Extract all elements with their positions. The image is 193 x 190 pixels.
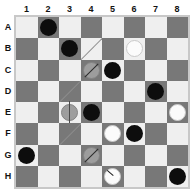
square-F7[interactable] xyxy=(145,123,167,144)
square-E1[interactable] xyxy=(16,102,38,123)
square-D3[interactable] xyxy=(59,81,81,102)
square-F8[interactable] xyxy=(167,123,189,144)
square-C2[interactable] xyxy=(38,60,60,81)
square-A4[interactable] xyxy=(81,17,103,38)
square-G6[interactable] xyxy=(124,145,146,166)
square-H8[interactable] xyxy=(167,166,189,187)
hairline-D3 xyxy=(59,81,81,102)
column-label-4: 4 xyxy=(81,3,102,15)
square-H2[interactable] xyxy=(38,166,60,187)
square-B3[interactable] xyxy=(59,38,81,59)
square-A7[interactable] xyxy=(145,17,167,38)
square-G7[interactable] xyxy=(145,145,167,166)
piece-gray-G4[interactable] xyxy=(83,147,100,164)
square-C3[interactable] xyxy=(59,60,81,81)
square-H4[interactable] xyxy=(81,166,103,187)
square-G8[interactable] xyxy=(167,145,189,166)
piece-black-D7[interactable] xyxy=(147,83,164,100)
square-A3[interactable] xyxy=(59,17,81,38)
square-E8[interactable] xyxy=(167,102,189,123)
column-label-3: 3 xyxy=(59,3,80,15)
square-G2[interactable] xyxy=(38,145,60,166)
square-D6[interactable] xyxy=(124,81,146,102)
column-label-1: 1 xyxy=(16,3,37,15)
square-F6[interactable] xyxy=(124,123,146,144)
square-D2[interactable] xyxy=(38,81,60,102)
square-H1[interactable] xyxy=(16,166,38,187)
square-C7[interactable] xyxy=(145,60,167,81)
hairline-B4 xyxy=(81,38,103,59)
square-D7[interactable] xyxy=(145,81,167,102)
square-E7[interactable] xyxy=(145,102,167,123)
piece-black-F6[interactable] xyxy=(126,125,143,142)
column-label-6: 6 xyxy=(124,3,145,15)
square-B4[interactable] xyxy=(81,38,103,59)
square-D1[interactable] xyxy=(16,81,38,102)
column-label-5: 5 xyxy=(102,3,123,15)
square-D8[interactable] xyxy=(167,81,189,102)
square-E5[interactable] xyxy=(102,102,124,123)
square-F3[interactable] xyxy=(59,123,81,144)
square-F1[interactable] xyxy=(16,123,38,144)
piece-black-E4[interactable] xyxy=(83,104,100,121)
square-B2[interactable] xyxy=(38,38,60,59)
square-F5[interactable] xyxy=(102,123,124,144)
column-label-2: 2 xyxy=(38,3,59,15)
square-B5[interactable] xyxy=(102,38,124,59)
piece-gray-C4[interactable] xyxy=(83,62,100,79)
square-B6[interactable] xyxy=(124,38,146,59)
column-label-8: 8 xyxy=(167,3,188,15)
row-label-A: A xyxy=(2,17,14,38)
square-D5[interactable] xyxy=(102,81,124,102)
piece-black-C5[interactable] xyxy=(104,62,121,79)
square-G1[interactable] xyxy=(16,145,38,166)
square-E6[interactable] xyxy=(124,102,146,123)
square-G3[interactable] xyxy=(59,145,81,166)
square-A1[interactable] xyxy=(16,17,38,38)
square-A8[interactable] xyxy=(167,17,189,38)
board-frame xyxy=(14,15,190,189)
checkerboard-widget: 12345678 ABCDEFGH xyxy=(0,0,193,190)
square-B8[interactable] xyxy=(167,38,189,59)
row-label-E: E xyxy=(2,102,14,123)
row-label-B: B xyxy=(2,38,14,59)
row-label-D: D xyxy=(2,81,14,102)
square-H5[interactable] xyxy=(102,166,124,187)
square-A6[interactable] xyxy=(124,17,146,38)
piece-black-B3[interactable] xyxy=(61,40,78,57)
row-label-H: H xyxy=(2,166,14,187)
square-A5[interactable] xyxy=(102,17,124,38)
square-E2[interactable] xyxy=(38,102,60,123)
piece-white-B6[interactable] xyxy=(126,40,143,57)
square-G4[interactable] xyxy=(81,145,103,166)
square-E3[interactable] xyxy=(59,102,81,123)
square-D4[interactable] xyxy=(81,81,103,102)
square-H3[interactable] xyxy=(59,166,81,187)
square-G5[interactable] xyxy=(102,145,124,166)
square-H6[interactable] xyxy=(124,166,146,187)
square-A2[interactable] xyxy=(38,17,60,38)
board-grid[interactable] xyxy=(16,17,188,187)
square-H7[interactable] xyxy=(145,166,167,187)
hairline-F3 xyxy=(59,123,81,144)
piece-gray-E3[interactable] xyxy=(61,104,78,121)
square-C6[interactable] xyxy=(124,60,146,81)
piece-white-H5[interactable] xyxy=(104,168,121,185)
piece-white-E8[interactable] xyxy=(169,104,186,121)
row-label-F: F xyxy=(2,123,14,144)
square-F4[interactable] xyxy=(81,123,103,144)
square-C1[interactable] xyxy=(16,60,38,81)
square-B7[interactable] xyxy=(145,38,167,59)
row-label-C: C xyxy=(2,60,14,81)
piece-black-G1[interactable] xyxy=(18,147,35,164)
square-E4[interactable] xyxy=(81,102,103,123)
square-C8[interactable] xyxy=(167,60,189,81)
square-C4[interactable] xyxy=(81,60,103,81)
piece-black-A2[interactable] xyxy=(40,19,57,36)
row-label-G: G xyxy=(2,145,14,166)
piece-black-H8[interactable] xyxy=(169,168,186,185)
piece-white-F5[interactable] xyxy=(104,125,121,142)
square-B1[interactable] xyxy=(16,38,38,59)
square-C5[interactable] xyxy=(102,60,124,81)
square-F2[interactable] xyxy=(38,123,60,144)
